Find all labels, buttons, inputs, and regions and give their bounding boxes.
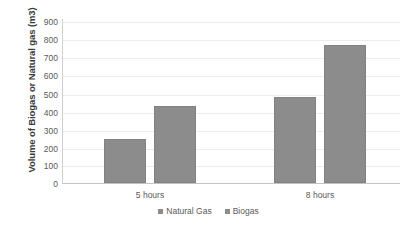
bar-biogas-5-hours: [154, 106, 196, 183]
y-tick-label-900: 900: [20, 18, 58, 27]
x-category-label-5-hours: 5 hours: [90, 190, 210, 200]
x-category-label-8-hours: 8 hours: [260, 190, 380, 200]
y-tick-label-100: 100: [20, 162, 58, 171]
y-tick-label-400: 400: [20, 109, 58, 118]
legend-swatch-icon-natural-gas: [158, 209, 163, 214]
bar-biogas-8-hours: [324, 45, 366, 183]
legend-swatch-icon-biogas: [225, 209, 230, 214]
legend-label-natural-gas: Natural Gas: [166, 206, 211, 216]
y-tick-label-0: 0: [20, 180, 58, 189]
gridline-800: [62, 40, 400, 41]
bar-chart: Volume of Biogas or Natural gas (m3) 900…: [0, 0, 417, 226]
y-tick-label-600: 600: [20, 72, 58, 81]
bar-natural-gas-5-hours: [104, 139, 146, 183]
y-tick-label-300: 300: [20, 127, 58, 136]
legend-label-biogas: Biogas: [233, 206, 259, 216]
y-tick-label-200: 200: [20, 145, 58, 154]
x-axis-line: [62, 183, 400, 184]
chart-legend: Natural Gas Biogas: [0, 206, 417, 216]
y-tick-label-700: 700: [20, 54, 58, 63]
y-tick-label-800: 800: [20, 36, 58, 45]
legend-item-natural-gas: Natural Gas: [158, 206, 211, 216]
legend-item-biogas: Biogas: [225, 206, 259, 216]
y-axis-line: [62, 19, 63, 184]
gridline-900: [62, 22, 400, 23]
y-tick-label-500: 500: [20, 91, 58, 100]
bar-natural-gas-8-hours: [274, 97, 316, 183]
